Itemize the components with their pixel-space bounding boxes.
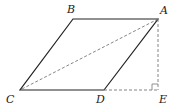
label-b: B	[66, 3, 75, 16]
label-e: E	[158, 93, 167, 106]
right-angle-marker	[152, 84, 158, 90]
geometry-diagram: B A C D E	[0, 0, 178, 112]
label-a: A	[159, 4, 168, 17]
label-c: C	[6, 93, 15, 106]
diagonal-ac	[20, 19, 158, 90]
label-d: D	[95, 93, 105, 106]
